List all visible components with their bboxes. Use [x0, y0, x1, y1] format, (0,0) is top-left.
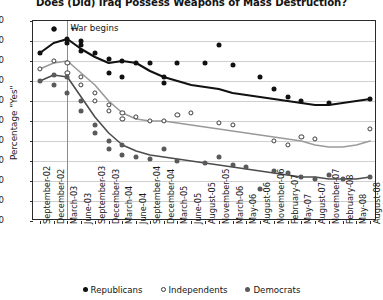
data-point — [244, 165, 249, 170]
data-point — [106, 71, 111, 76]
data-point — [230, 163, 235, 168]
x-tick-label: September-02 — [42, 166, 52, 224]
y-tick-label: 80 — [0, 55, 4, 65]
y-tick-label: 10 — [0, 195, 4, 205]
y-tick-label: 90 — [0, 35, 4, 45]
x-tick-label: November-05 — [221, 169, 231, 224]
x-tick-label: November-06 — [276, 169, 286, 224]
x-tick-label: February-08 — [345, 174, 355, 224]
data-point — [79, 39, 84, 44]
y-tick-mark — [30, 201, 33, 202]
data-point — [120, 75, 125, 80]
data-point — [92, 123, 97, 128]
data-point — [65, 91, 70, 96]
data-point — [120, 59, 125, 64]
data-point — [230, 63, 235, 68]
y-tick-mark — [30, 101, 33, 102]
x-tick-label: February-07 — [290, 174, 300, 224]
x-tick-mark — [150, 221, 151, 224]
legend-label: Independents — [169, 285, 228, 295]
data-point — [51, 83, 56, 88]
data-point — [134, 61, 139, 66]
left-arrow-icon: ← — [70, 23, 78, 33]
y-tick-mark — [30, 41, 33, 42]
x-tick-label: December-02 — [56, 169, 66, 224]
x-tick-mark — [219, 221, 220, 224]
x-tick-mark — [95, 221, 96, 224]
data-point — [65, 41, 70, 46]
x-tick-mark — [233, 221, 234, 224]
data-point — [313, 177, 318, 182]
data-point — [271, 87, 276, 92]
x-tick-mark — [329, 221, 330, 224]
x-tick-mark — [81, 221, 82, 224]
y-tick-mark — [30, 141, 33, 142]
trend-line-republicans — [40, 39, 370, 105]
x-tick-label: June-03 — [83, 193, 93, 224]
x-tick-mark — [370, 221, 371, 224]
x-tick-mark — [288, 221, 289, 224]
data-point — [106, 147, 111, 152]
y-tick-mark — [30, 21, 33, 22]
x-tick-mark — [315, 221, 316, 224]
data-point — [258, 75, 263, 80]
x-tick-label: March-03 — [69, 186, 79, 224]
x-tick-label: May-06 — [248, 194, 258, 224]
x-tick-label: December-03 — [111, 169, 121, 224]
y-tick-mark — [30, 121, 33, 122]
data-point — [203, 161, 208, 166]
x-tick-label: March-04 — [124, 186, 134, 224]
data-point — [134, 155, 139, 160]
data-point — [37, 51, 42, 56]
x-tick-label: March-05 — [179, 186, 189, 224]
data-point — [175, 159, 180, 164]
data-point — [51, 27, 56, 32]
y-tick-mark — [30, 221, 33, 222]
data-point — [368, 175, 373, 180]
legend-label: Republicans — [91, 285, 143, 295]
y-tick-label: 60 — [0, 95, 4, 105]
legend-label: Democrats — [253, 285, 300, 295]
data-point — [51, 73, 56, 78]
chart-container: Does (Did) Iraq Possess Weapons of Mass … — [0, 0, 383, 300]
y-tick-label: 30 — [0, 155, 4, 165]
data-point — [120, 143, 125, 148]
y-tick-label: 70 — [0, 75, 4, 85]
data-point — [175, 61, 180, 66]
x-tick-label: June-04 — [138, 193, 148, 224]
x-tick-mark — [205, 221, 206, 224]
x-tick-mark — [109, 221, 110, 224]
data-point — [120, 153, 125, 158]
data-point — [161, 81, 166, 86]
x-tick-label: September-04 — [152, 166, 162, 224]
data-point — [147, 157, 152, 162]
data-point — [106, 57, 111, 62]
y-axis-title: Percentage "Yes" — [9, 85, 19, 160]
data-point — [299, 99, 304, 104]
x-tick-label: August-07 — [317, 182, 327, 224]
data-point — [37, 79, 42, 84]
x-tick-label: August-08 — [372, 182, 382, 224]
legend-marker-icon — [245, 287, 250, 292]
data-point — [161, 147, 166, 152]
y-tick-mark — [30, 61, 33, 62]
x-tick-mark — [260, 221, 261, 224]
annotation-war-begins: ← War begins — [70, 23, 118, 33]
data-point — [216, 43, 221, 48]
legend-item: Independents — [161, 284, 228, 295]
y-tick-label: 0 — [0, 215, 4, 225]
data-point — [203, 61, 208, 66]
data-point — [147, 61, 152, 66]
data-point — [65, 75, 70, 80]
legend-item: Republicans — [83, 284, 143, 295]
data-point — [106, 139, 111, 144]
x-tick-label: March-06 — [235, 186, 245, 224]
y-tick-label: 50 — [0, 115, 4, 125]
data-point — [79, 99, 84, 104]
x-tick-mark — [343, 221, 344, 224]
data-point — [368, 97, 373, 102]
y-tick-mark — [30, 81, 33, 82]
data-point — [326, 101, 331, 106]
chart-title: Does (Did) Iraq Possess Weapons of Mass … — [0, 0, 383, 8]
data-point — [92, 131, 97, 136]
